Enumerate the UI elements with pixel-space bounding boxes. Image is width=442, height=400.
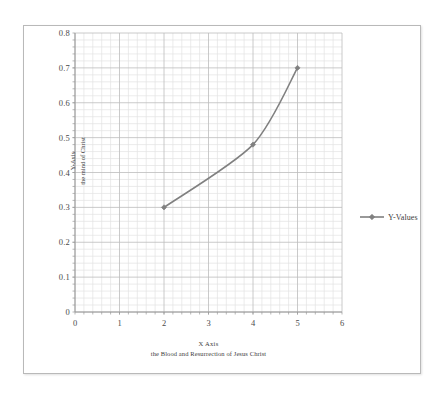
chart-legend: Y-Values <box>359 212 418 222</box>
y-axis-title-line2: the mind of Christ <box>78 116 88 206</box>
x-axis-title-line1: X Axis <box>75 339 342 349</box>
x-tick-label: 4 <box>251 318 255 328</box>
y-tick-label: 0.1 <box>59 272 70 282</box>
legend-label-y-values: Y-Values <box>388 213 418 222</box>
chart-screenshot: 00.10.20.30.40.50.60.70.8 0123456 X Axis… <box>0 0 442 400</box>
y-axis-title: Y-Axis the mind of Christ <box>68 116 86 206</box>
x-tick-label: 3 <box>206 318 210 328</box>
legend-marker-icon <box>359 212 385 222</box>
x-axis-title: X Axis the Blood and Resurrection of Jes… <box>75 339 342 359</box>
y-tick-label: 0.7 <box>59 63 70 73</box>
data-series-y-values <box>75 33 342 312</box>
y-tick-label: 0.2 <box>59 237 70 247</box>
chart-frame: 00.10.20.30.40.50.60.70.8 0123456 X Axis… <box>23 25 421 374</box>
y-axis-title-line1: Y-Axis <box>68 116 78 206</box>
y-tick-label: 0.6 <box>59 98 70 108</box>
x-tick-label: 5 <box>295 318 299 328</box>
plot-area: 00.10.20.30.40.50.60.70.8 0123456 <box>75 33 342 312</box>
x-tick-label: 1 <box>117 318 121 328</box>
y-tick-label: 0 <box>66 307 70 317</box>
x-tick-label: 0 <box>73 318 77 328</box>
x-axis-title-line2: the Blood and Resurrection of Jesus Chri… <box>75 349 342 359</box>
x-tick-label: 2 <box>162 318 166 328</box>
x-tick-label: 6 <box>340 318 344 328</box>
y-tick-label: 0.8 <box>59 28 70 38</box>
